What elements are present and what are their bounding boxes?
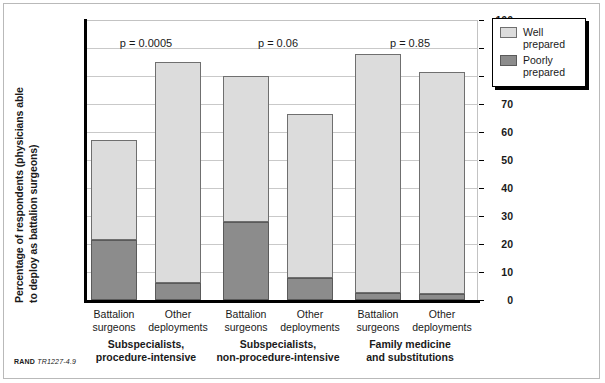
legend-label-well-prepared: Well prepared bbox=[523, 26, 565, 50]
y-axis-title: Percentage of respondents (physicians ab… bbox=[12, 18, 46, 303]
x-axis-group-label: Family medicineand substitutions bbox=[366, 338, 454, 364]
y-axis-tickmark bbox=[479, 48, 484, 49]
x-axis-group-label-line1: Subspecialists, bbox=[216, 338, 339, 351]
y-axis-tick-20: 20 bbox=[485, 238, 513, 250]
bar-segment-well-prepared bbox=[287, 114, 333, 278]
bar-segment-poorly-prepared bbox=[355, 293, 401, 300]
stacked-bar bbox=[287, 114, 333, 300]
legend: Well prepared Poorly prepared bbox=[492, 18, 586, 87]
x-axis-tick-label: Battalionsurgeons bbox=[224, 308, 267, 333]
y-axis-tickmark bbox=[479, 76, 484, 77]
legend-swatch-well-prepared bbox=[500, 27, 517, 38]
bar-segment-poorly-prepared bbox=[223, 222, 269, 300]
bar-segment-well-prepared bbox=[91, 140, 137, 239]
x-axis-tick-label-line1: Other bbox=[412, 308, 472, 321]
stacked-bar bbox=[155, 62, 201, 300]
stacked-bar bbox=[355, 54, 401, 300]
legend-label-poorly-prepared: Poorly prepared bbox=[523, 54, 565, 78]
bar-segment-poorly-prepared bbox=[287, 278, 333, 300]
y-axis-line bbox=[84, 19, 87, 301]
y-axis-title-line2: to deploy as battalion surgeons) bbox=[27, 145, 39, 303]
y-axis-tick-30: 30 bbox=[485, 210, 513, 222]
x-axis-group-label-line2: and substitutions bbox=[366, 351, 454, 364]
x-axis-tick-label-line2: surgeons bbox=[356, 321, 399, 334]
x-axis-group-label: Subspecialists,procedure-intensive bbox=[96, 338, 196, 364]
p-value-label: p = 0.85 bbox=[390, 37, 430, 49]
y-axis-tick-70: 70 bbox=[485, 98, 513, 110]
bar-segment-well-prepared bbox=[155, 62, 201, 283]
x-axis-group-label-line2: non-procedure-intensive bbox=[216, 351, 339, 364]
x-axis-group-label-line1: Family medicine bbox=[366, 338, 454, 351]
y-axis-tick-40: 40 bbox=[485, 182, 513, 194]
figure-container: Percentage of respondents (physicians ab… bbox=[0, 0, 605, 383]
x-axis-group-label-line2: procedure-intensive bbox=[96, 351, 196, 364]
y-axis-tick-10: 10 bbox=[485, 266, 513, 278]
y-axis-tick-0: 0 bbox=[485, 294, 513, 306]
x-axis-tick-label-line2: surgeons bbox=[92, 321, 135, 334]
y-axis-tickmark bbox=[479, 216, 484, 217]
footer-attribution: RAND TR1227-4.9 bbox=[14, 358, 76, 365]
y-axis-title-line1: Percentage of respondents (physicians ab… bbox=[13, 87, 25, 303]
y-axis-tickmark bbox=[479, 132, 484, 133]
x-axis-tick-label-line2: deployments bbox=[412, 321, 472, 334]
legend-swatch-poorly-prepared bbox=[500, 55, 517, 66]
bar-segment-poorly-prepared bbox=[155, 283, 201, 300]
footer-publisher: RAND bbox=[14, 358, 35, 365]
x-axis-tick-label-line2: deployments bbox=[148, 321, 208, 334]
x-axis-tick-label: Otherdeployments bbox=[148, 308, 208, 333]
y-axis-tick-50: 50 bbox=[485, 154, 513, 166]
legend-item-well-prepared: Well prepared bbox=[500, 26, 579, 50]
bar-segment-well-prepared bbox=[223, 76, 269, 222]
y-axis-tickmark bbox=[479, 272, 484, 273]
x-axis-tick-label: Battalionsurgeons bbox=[356, 308, 399, 333]
x-axis-tick-label-line2: surgeons bbox=[224, 321, 267, 334]
stacked-bar bbox=[223, 76, 269, 300]
y-axis-tickmark bbox=[479, 104, 484, 105]
x-axis-group-label: Subspecialists,non-procedure-intensive bbox=[216, 338, 339, 364]
p-value-label: p = 0.0005 bbox=[120, 37, 172, 49]
x-axis-tick-label-line2: deployments bbox=[280, 321, 340, 334]
x-axis-tick-label: Battalionsurgeons bbox=[92, 308, 135, 333]
y-axis-tickmark bbox=[479, 188, 484, 189]
x-axis-tick-label-line1: Other bbox=[148, 308, 208, 321]
x-axis-tick-label: Otherdeployments bbox=[280, 308, 340, 333]
plot-area bbox=[86, 20, 478, 300]
stacked-bar bbox=[91, 140, 137, 300]
p-value-label: p = 0.06 bbox=[258, 37, 298, 49]
bar-segment-poorly-prepared bbox=[91, 240, 137, 300]
bar-segment-well-prepared bbox=[419, 72, 465, 295]
x-axis-group-label-line1: Subspecialists, bbox=[96, 338, 196, 351]
footer-document-id: TR1227-4.9 bbox=[37, 358, 76, 365]
y-axis-tickmark bbox=[479, 244, 484, 245]
x-axis-tick-label-line1: Other bbox=[280, 308, 340, 321]
bar-segment-well-prepared bbox=[355, 54, 401, 293]
x-axis-tick-label-line1: Battalion bbox=[224, 308, 267, 321]
x-axis-line bbox=[84, 300, 480, 303]
y-axis-tick-60: 60 bbox=[485, 126, 513, 138]
x-axis-tick-label-line1: Battalion bbox=[92, 308, 135, 321]
legend-item-poorly-prepared: Poorly prepared bbox=[500, 54, 579, 78]
x-axis-tick-label: Otherdeployments bbox=[412, 308, 472, 333]
y-axis-tickmark bbox=[479, 160, 484, 161]
stacked-bar bbox=[419, 72, 465, 300]
x-axis-tick-label-line1: Battalion bbox=[356, 308, 399, 321]
y-axis-tickmark bbox=[479, 20, 484, 21]
